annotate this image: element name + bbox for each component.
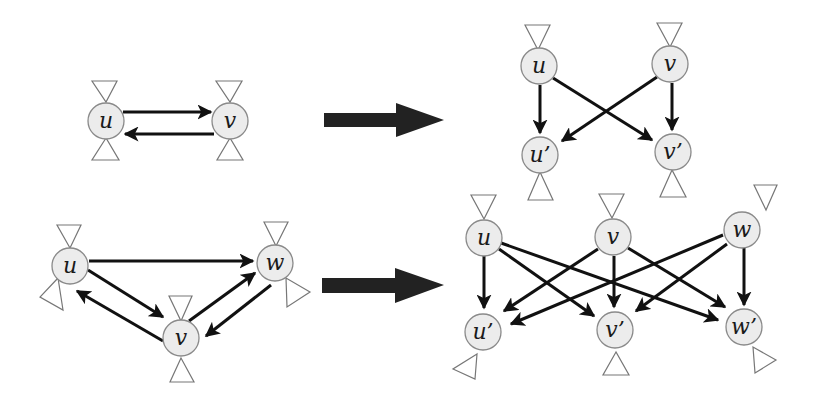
u-prime-out-triangle — [528, 172, 553, 200]
svg-text:u: u — [99, 108, 113, 133]
node-v-prime: v’ — [597, 312, 633, 348]
transform-arrow-icon — [324, 103, 444, 137]
u-prime-out-triangle — [453, 354, 477, 379]
v-prime-out-triangle — [660, 170, 686, 197]
edge-v-to-w — [189, 273, 255, 321]
node-v: v — [595, 219, 631, 255]
svg-text:w: w — [733, 217, 752, 242]
v-in-triangle — [657, 23, 682, 47]
svg-text:v’: v’ — [663, 139, 682, 164]
row2-right-graph: u v w u’ v’ w’ — [453, 185, 777, 379]
node-u: u — [52, 248, 88, 284]
svg-text:u: u — [532, 53, 546, 78]
svg-text:w: w — [266, 250, 285, 275]
edge-v-to-u-prime — [504, 249, 598, 311]
svg-text:v: v — [224, 108, 237, 133]
transform-arrow-icon — [322, 268, 444, 303]
edge-v-to-u-prime — [562, 77, 657, 141]
u-out-triangle — [40, 278, 63, 310]
svg-text:v: v — [175, 325, 188, 350]
w-out-triangle — [286, 278, 310, 307]
w-in-triangle — [264, 222, 288, 246]
node-u: u — [466, 220, 502, 256]
w-prime-out-triangle — [753, 347, 776, 373]
edge-u-to-v — [88, 270, 163, 317]
v-in-triangle — [599, 194, 624, 218]
svg-text:v: v — [607, 224, 620, 249]
edge-v-to-u — [77, 291, 163, 341]
v-in-triangle — [169, 296, 192, 321]
svg-text:v’: v’ — [605, 317, 624, 342]
u-in-triangle — [525, 25, 550, 50]
node-v: v — [652, 46, 688, 82]
w-in-triangle — [754, 185, 777, 210]
v-out-triangle — [217, 138, 243, 160]
node-u-prime: u’ — [522, 137, 558, 173]
node-w: w — [257, 245, 293, 281]
node-v: v — [163, 320, 199, 356]
row2-left-graph: u w v — [40, 222, 310, 382]
svg-text:v: v — [664, 51, 677, 76]
graph-transformation-diagram: u v u v u’ v’ — [0, 0, 816, 402]
edge-u-to-v-prime — [553, 78, 652, 140]
node-w: w — [724, 212, 760, 248]
svg-text:u’: u’ — [472, 319, 493, 344]
node-v: v — [212, 103, 248, 139]
svg-text:u: u — [63, 253, 77, 278]
svg-text:w’: w’ — [731, 314, 757, 339]
row1-right-graph: u v u’ v’ — [521, 23, 691, 200]
u-out-triangle — [92, 138, 119, 160]
edge-w-to-v — [206, 285, 271, 336]
svg-text:u’: u’ — [529, 142, 550, 167]
node-u-prime: u’ — [465, 314, 501, 350]
v-prime-out-triangle — [603, 352, 629, 375]
node-u: u — [88, 103, 124, 139]
v-in-triangle — [216, 81, 242, 102]
node-w-prime: w’ — [726, 309, 762, 345]
u-in-triangle — [92, 81, 117, 102]
u-in-triangle — [57, 225, 81, 248]
u-in-triangle — [471, 195, 496, 219]
node-v-prime: v’ — [655, 134, 691, 170]
node-u: u — [521, 48, 557, 84]
row1-left-graph: u v — [88, 81, 248, 160]
v-out-triangle — [170, 358, 194, 382]
svg-text:u: u — [477, 225, 491, 250]
